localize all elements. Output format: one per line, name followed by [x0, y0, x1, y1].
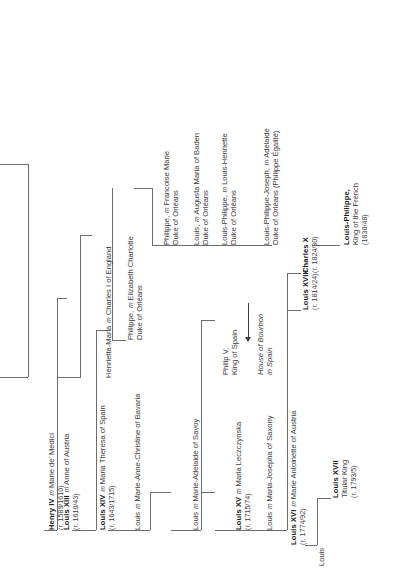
node-louis15: Louis XVmMaria Leczczynska (r. 1715/74): [235, 422, 252, 530]
node-louis14: Louis XIVmMaria Theresa of Spain (r. 164…: [99, 405, 116, 530]
connector-line: [150, 492, 151, 530]
spouse-name: Louis-Henriette: [220, 133, 229, 185]
connector-line: [28, 164, 29, 377]
person-name: Henrietta-Maria: [104, 326, 113, 378]
connector-line: [287, 273, 288, 530]
connector-line: [0, 377, 28, 378]
reign-dates: (r. 1814/24): [311, 270, 319, 310]
node-philippe-orleans-2: Philippe,mFrancoise Marie Duke of Orléan…: [163, 151, 181, 245]
connector-line: [150, 492, 171, 493]
reign-dates: (r. 1793/5): [350, 460, 358, 498]
node-philippe-egalite: Louis-Philippe-Joseph,mAdelaide Duke of …: [263, 128, 281, 245]
person-title: Duke of Orléans: [172, 151, 181, 245]
person-name: Louis-Philippe,: [342, 189, 351, 245]
marriage-symbol: m: [134, 502, 141, 512]
person-title: Duke of Orléans: [202, 133, 211, 245]
connector-line: [305, 545, 317, 546]
node-louis-philippe-orleans: Louis-Philippe,mLouis-Henriette Duke of …: [221, 133, 239, 245]
person-name: Louis,: [192, 225, 201, 245]
connector-line: [108, 530, 150, 531]
person-name: Louis XIV: [98, 495, 107, 531]
spouse-name: Francoise Marie: [162, 151, 171, 205]
connector-line: [152, 245, 172, 246]
spouse-name: Elizabeth Charlotte: [126, 236, 135, 300]
connector-line: [57, 377, 80, 378]
connector-line: [317, 498, 318, 545]
connector-line: [80, 235, 81, 378]
spouse-name: Augusta Maria of Baden: [192, 133, 201, 214]
marriage-symbol: m: [163, 206, 170, 216]
connector-line: [134, 188, 152, 189]
connector-line: [287, 310, 301, 311]
person-name: Louis XIII: [62, 495, 71, 530]
spouse-name: Marie-Adelaide of Savoy: [191, 419, 200, 502]
reign-dates: (r. 1824/30): [311, 236, 319, 273]
reign-dates: (r. 1774/92): [299, 411, 307, 545]
connector-line: [202, 245, 230, 246]
person-name: Philippe,: [126, 311, 135, 340]
connector-line: [72, 530, 96, 531]
connector-line: [96, 330, 97, 530]
branch-label-line2: in Spain: [266, 314, 275, 375]
node-louis16: Louis XVImMarie Antoinette of Austria (r…: [290, 411, 307, 545]
marriage-symbol: m: [127, 301, 134, 311]
spouse-name: Anne of Austria: [62, 433, 71, 485]
person-name: Louis XV: [234, 497, 243, 530]
connector-line: [201, 320, 202, 530]
reign-dates: (r. 1715/74): [244, 422, 252, 530]
connector-line: [171, 530, 201, 531]
connector-line: [201, 320, 215, 321]
person-title: Duke of Orléans: [136, 236, 145, 340]
person-title: Duke of Orléans: [230, 133, 239, 245]
spouse-name: Marie de' Medici: [47, 433, 56, 488]
node-louis-grand-dauphin: LouismMarie-Anne-Christine of Bavaria: [134, 393, 143, 530]
person-name: Henry IV: [47, 498, 56, 530]
marriage-symbol: m: [193, 214, 200, 224]
marriage-symbol: m: [99, 484, 106, 494]
person-name: Philippe,: [162, 216, 171, 245]
person-name: Charles X: [301, 237, 310, 273]
connector-line: [287, 273, 301, 274]
reign-dates: (r. 1610/43): [72, 433, 80, 530]
connector-line: [152, 188, 153, 245]
person-name: Louis XVIII: [301, 270, 310, 310]
node-louis-philippe-king: Louis-Philippe, King of the French (1830…: [343, 183, 369, 245]
node-louis18: Louis XVIII (r. 1814/24): [302, 270, 319, 310]
marriage-symbol: m: [263, 158, 270, 168]
spouse-name: Marie Antoinette of Austria: [289, 411, 298, 500]
spouse-name: Maria Leczczynska: [234, 422, 243, 487]
marriage-symbol: m: [48, 488, 55, 498]
person-title: King of Spain: [231, 330, 240, 375]
node-charles10: Charles X (r. 1824/30): [302, 236, 319, 273]
spouse-name: Maria Theresa of Spain: [98, 405, 107, 484]
spouse-name: Adelaide: [262, 128, 271, 158]
node-louis-burgundy: LouismMarie-Adelaide of Savoy: [192, 419, 201, 530]
marriage-symbol: m: [63, 485, 70, 495]
connector-line: [215, 530, 243, 531]
marriage-symbol: m: [290, 499, 297, 509]
person-name: Louis: [318, 548, 327, 566]
connector-line: [230, 245, 272, 246]
genealogy-chart: Henry IVmMarie de' Medici (r. 1589/1610)…: [0, 0, 401, 581]
connector-line: [57, 298, 67, 299]
person-name: Louis: [133, 512, 142, 530]
person-name: Louis-Philippe-Joseph,: [262, 168, 271, 245]
node-philippe-orleans-1: Philippe,mElizabeth Charlotte Duke of Or…: [127, 236, 145, 340]
node-louis-son-of-16: Louis: [318, 548, 327, 566]
node-louis13: Louis XIIImAnne of Austria (r. 1610/43): [63, 433, 80, 530]
marriage-symbol: m: [221, 185, 228, 195]
node-louis-dauphin-2: LouismMaria-Josepha of Saxony: [266, 415, 275, 530]
person-name: Louis-Philippe,: [220, 195, 229, 245]
spouse-name: Maria-Josepha of Saxony: [265, 415, 274, 501]
person-name: Louis: [265, 512, 274, 530]
node-philip-v-spain: Philip V, King of Spain: [222, 330, 240, 375]
connector-line: [317, 498, 331, 499]
connector-line: [265, 530, 287, 531]
node-louis17: Louis XVII Titular King (r. 1793/5): [332, 460, 358, 498]
spouse-name: Charles I of England: [104, 247, 113, 316]
reign-dates: (r. 1643/1715): [108, 405, 116, 530]
connector-line: [112, 340, 126, 341]
person-name: Louis: [191, 512, 200, 530]
connector-line: [243, 530, 265, 531]
marriage-symbol: m: [266, 502, 273, 512]
